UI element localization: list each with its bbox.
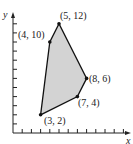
label-3-2: (3, 2) bbox=[44, 116, 66, 126]
vertex-point bbox=[48, 40, 52, 44]
vertex-point bbox=[85, 77, 89, 81]
x-ticks bbox=[22, 129, 123, 133]
label-5-12: (5, 12) bbox=[60, 11, 87, 21]
feasible-region-chart bbox=[0, 0, 133, 144]
y-ticks bbox=[13, 24, 17, 124]
label-4-10: (4, 10) bbox=[18, 30, 45, 40]
label-7-4: (7, 4) bbox=[78, 98, 100, 108]
vertex-point bbox=[39, 113, 43, 117]
y-axis-arrow bbox=[11, 12, 15, 18]
x-axis-label: x bbox=[126, 136, 130, 144]
vertex-point bbox=[57, 22, 61, 26]
label-8-6: (8, 6) bbox=[89, 74, 111, 84]
y-axis-label: y bbox=[3, 10, 7, 20]
